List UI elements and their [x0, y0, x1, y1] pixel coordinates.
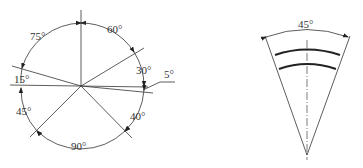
sector-edge-left: [265, 36, 307, 155]
outer-arc: [275, 50, 340, 56]
leader-5: [143, 82, 175, 90]
label-40: 40°: [130, 110, 145, 122]
arc-45-dimension: [266, 30, 348, 38]
angle-division-diagram: 75° 60° 30° 5° 15° 45° 40° 90°: [10, 10, 175, 152]
label-75: 75°: [30, 30, 45, 42]
label-45: 45°: [16, 105, 31, 117]
radial-line-45: [30, 86, 81, 137]
label-45-sector: 45°: [298, 18, 313, 30]
label-30: 30°: [136, 64, 151, 76]
sector-edge-right: [307, 36, 350, 155]
inner-arc: [279, 64, 336, 69]
sector-diagram: 45°: [265, 18, 350, 160]
figure-canvas: 75° 60° 30° 5° 15° 45° 40° 90° 45°: [0, 0, 363, 168]
label-60: 60°: [107, 23, 122, 35]
label-15: 15°: [14, 73, 29, 85]
radial-line-40: [81, 86, 132, 138]
label-5: 5°: [164, 68, 174, 80]
label-90: 90°: [71, 140, 86, 152]
radial-line-30: [81, 48, 144, 86]
